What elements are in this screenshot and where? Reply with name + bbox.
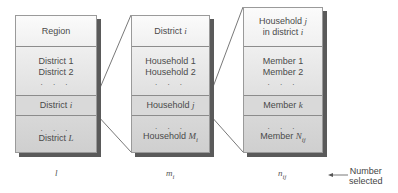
district-1: District 1 bbox=[38, 56, 73, 67]
household-header-text: Household bbox=[259, 16, 302, 26]
var-i: i bbox=[184, 26, 187, 36]
selected-member: Member k bbox=[244, 96, 322, 116]
selected-household-text: Household bbox=[146, 100, 189, 110]
selected-district-text: District bbox=[40, 100, 68, 110]
var-k: k bbox=[299, 100, 303, 110]
var-L: L bbox=[69, 133, 74, 143]
district-header: District i bbox=[132, 16, 209, 47]
remaining-households: . . . Household Mi bbox=[132, 116, 209, 152]
member-list: Member 1 Member 2 . . . bbox=[244, 47, 322, 96]
var-j: j bbox=[192, 100, 195, 110]
sub-i: i bbox=[173, 173, 175, 181]
selected-household: Household j bbox=[132, 96, 209, 116]
number-selected-note: Number selected bbox=[349, 166, 383, 186]
remaining-members: . . . Member Nij bbox=[244, 116, 322, 152]
arrow-left-icon bbox=[328, 171, 348, 179]
remaining-districts: . . . District L bbox=[16, 116, 96, 152]
in-district-text: in district bbox=[263, 27, 299, 37]
var-i: i bbox=[301, 27, 304, 37]
ellipsis: . . . bbox=[155, 122, 186, 131]
ellipsis: . . . bbox=[267, 122, 298, 131]
household-list: Household 1 Household 2 . . . bbox=[132, 47, 209, 96]
var-M: M bbox=[189, 131, 197, 141]
household-header: Household j in district i bbox=[244, 8, 322, 47]
var-j: j bbox=[305, 16, 308, 26]
sub-ij: ij bbox=[283, 173, 287, 181]
member-2: Member 2 bbox=[263, 67, 304, 78]
ellipsis: . . . bbox=[40, 124, 71, 133]
household-1: Household 1 bbox=[145, 56, 196, 67]
count-label-n-ij: nij bbox=[278, 168, 286, 181]
district-list: District 1 District 2 . . . bbox=[16, 47, 96, 96]
stage-1-region-box: Region District 1 District 2 . . . Distr… bbox=[15, 15, 97, 153]
ellipsis: . . . bbox=[267, 78, 298, 87]
district-header-text: District bbox=[154, 26, 182, 36]
district-2: District 2 bbox=[38, 67, 73, 78]
last-household-text: Household bbox=[143, 131, 186, 141]
region-label: Region bbox=[42, 26, 71, 37]
stage-2-district-box: District i Household 1 Household 2 . . .… bbox=[131, 15, 210, 153]
number-text: Number bbox=[349, 166, 383, 176]
var-i: i bbox=[70, 100, 73, 110]
ellipsis: . . . bbox=[155, 78, 186, 87]
count-label-m-i: mi bbox=[166, 168, 174, 181]
selected-district: District i bbox=[16, 96, 96, 116]
household-2: Household 2 bbox=[145, 67, 196, 78]
last-district-text: District bbox=[38, 133, 66, 143]
selected-member-text: Member bbox=[263, 100, 296, 110]
ellipsis: . . . bbox=[40, 78, 71, 87]
selected-text: selected bbox=[349, 176, 383, 186]
last-member-text: Member bbox=[260, 131, 293, 141]
stage-3-household-box: Household j in district i Member 1 Membe… bbox=[243, 7, 323, 153]
count-label-l: l bbox=[55, 168, 58, 178]
sub-ij: ij bbox=[302, 136, 306, 144]
sub-i: i bbox=[196, 136, 198, 144]
region-header: Region bbox=[16, 16, 96, 47]
member-1: Member 1 bbox=[263, 56, 304, 67]
